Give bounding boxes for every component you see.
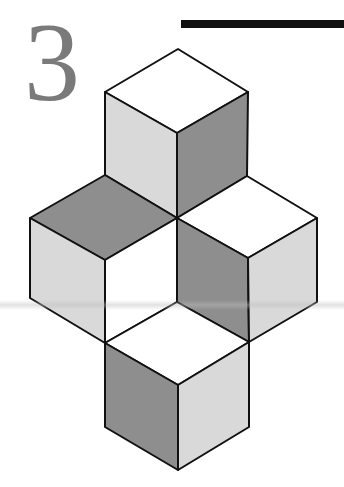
scan-artifact-band	[0, 300, 344, 310]
isometric-cubes-diagram	[0, 0, 344, 487]
